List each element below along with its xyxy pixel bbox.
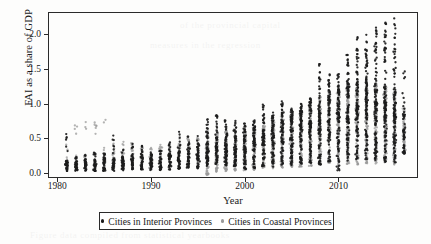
chart-legend: Cities in Interior Provinces Cities in C… (99, 212, 334, 230)
figure-root: of the provincial capital measures in th… (0, 0, 431, 244)
legend-item-interior: Cities in Interior Provinces (101, 216, 212, 227)
legend-item-coastal: Cities in Coastal Provinces (221, 216, 332, 227)
legend-dot-coastal (221, 219, 224, 222)
scatter-points-layer (0, 0, 431, 244)
legend-dot-interior (101, 219, 104, 222)
legend-label-interior: Cities in Interior Provinces (108, 216, 212, 227)
series-interior (64, 17, 406, 172)
legend-label-coastal: Cities in Coastal Provinces (228, 216, 332, 227)
